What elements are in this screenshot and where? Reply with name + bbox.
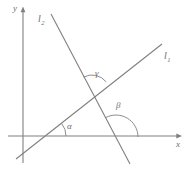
angle-label-alpha: α	[67, 122, 72, 131]
geometry-figure: y x l2 l1 α β γ	[0, 0, 193, 179]
line-l1-label-subscript: 1	[167, 56, 170, 63]
x-axis	[8, 134, 182, 139]
line-l2	[51, 14, 130, 164]
line-l1-label: l1	[164, 51, 170, 61]
line-l2-label: l2	[38, 14, 44, 24]
line-l2-label-subscript: 2	[41, 19, 44, 26]
line-l1	[16, 44, 162, 159]
y-axis	[21, 7, 26, 164]
y-axis-label: y	[13, 4, 17, 13]
angle-arc-alpha	[62, 124, 66, 136]
angle-label-gamma: γ	[95, 69, 99, 78]
figure-canvas	[0, 0, 193, 179]
y-axis-arrow-icon	[21, 7, 26, 13]
angle-label-beta: β	[116, 101, 120, 110]
x-axis-arrow-icon	[176, 134, 182, 139]
x-axis-label: x	[176, 140, 180, 149]
